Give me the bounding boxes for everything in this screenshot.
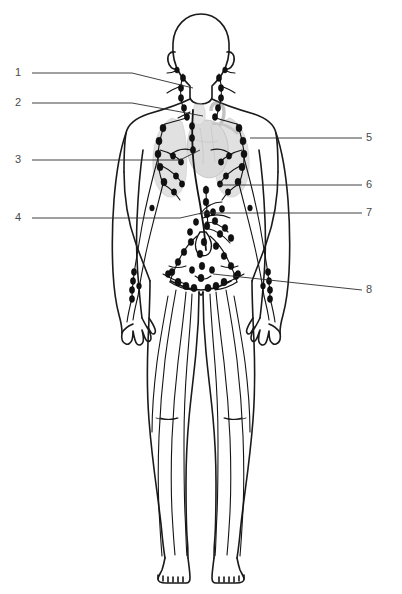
arm-left-inner: [137, 150, 143, 318]
lymph-node: [165, 271, 170, 278]
arm-right-inner: [259, 150, 265, 318]
lymph-node: [160, 124, 166, 132]
lymph-node: [218, 85, 223, 92]
lymph-node: [239, 163, 245, 171]
lymph-node: [178, 95, 183, 102]
lymph-node: [183, 282, 189, 290]
lymph-node: [188, 238, 194, 245]
lymph-node: [267, 287, 272, 294]
lymph-node: [267, 296, 272, 303]
lymph-node: [137, 283, 142, 289]
leg-left-inner: [186, 292, 199, 558]
lymph-node: [219, 206, 224, 213]
callout-number-8[interactable]: 8: [366, 284, 372, 295]
lymph-node: [157, 163, 163, 171]
lymph-node: [215, 105, 220, 112]
callout-number-2[interactable]: 2: [15, 97, 21, 108]
lymph-node: [161, 178, 167, 186]
organ-tint-group: [153, 103, 249, 197]
lymph-node: [179, 181, 184, 187]
thymus-tint: [193, 103, 206, 125]
lymph-node: [199, 262, 205, 270]
lymph-node: [181, 248, 187, 255]
lymph-node: [191, 284, 197, 292]
hand-right-thumb: [269, 324, 280, 333]
lymph-node: [170, 153, 175, 159]
lymph-node: [175, 258, 181, 265]
lymph-node: [189, 267, 194, 274]
lymph-node: [171, 189, 176, 195]
lymph-node: [212, 217, 218, 224]
leg-vessel-left-1: [158, 290, 176, 556]
leader-line-4: [32, 213, 202, 218]
lymph-node: [226, 153, 231, 159]
lymph-node: [241, 150, 247, 158]
callout-number-4[interactable]: 4: [15, 212, 21, 223]
lymph-node: [201, 238, 207, 246]
lymph-node: [131, 269, 136, 276]
lymph-node: [221, 278, 227, 286]
lymph-node: [203, 198, 209, 206]
leader-line-1: [32, 73, 193, 88]
hand-left-thumb: [122, 324, 133, 333]
lymph-node: [193, 219, 198, 226]
callout-number-6[interactable]: 6: [366, 179, 372, 190]
groin-line: [199, 292, 203, 295]
leg-right-inner: [203, 292, 216, 558]
lymph-node: [175, 278, 181, 286]
lymph-node: [189, 122, 194, 129]
lymph-node: [184, 114, 189, 121]
lymph-node: [203, 186, 209, 194]
obturator-left: [169, 266, 186, 268]
lymph-node: [218, 95, 223, 102]
lymph-node: [189, 134, 194, 141]
lymph-node: [223, 67, 228, 73]
lymph-node: [218, 159, 223, 165]
lymph-node: [173, 173, 178, 179]
lymph-node: [216, 75, 221, 82]
lymph-node: [129, 287, 134, 294]
callout-number-1[interactable]: 1: [15, 67, 21, 78]
lymph-node: [228, 234, 234, 241]
lymph-node: [150, 205, 155, 211]
lymph-node: [209, 267, 214, 274]
lymph-node: [187, 229, 192, 236]
lymph-node: [225, 189, 230, 195]
lymph-node: [217, 181, 222, 187]
lymph-node: [156, 137, 162, 145]
lymph-node: [180, 75, 185, 82]
toes-right: [219, 575, 244, 582]
lymph-node: [223, 173, 228, 179]
lymph-node: [213, 282, 219, 290]
lymph-node: [197, 250, 203, 258]
lymph-node: [212, 114, 217, 121]
lymph-node: [175, 67, 180, 73]
lymph-node: [155, 150, 161, 158]
leg-vessel-right-1: [226, 290, 244, 556]
callout-number-7[interactable]: 7: [366, 207, 372, 218]
lymph-node: [129, 296, 134, 303]
popliteal-left: [160, 418, 178, 420]
lymphatic-system-figure: 1 2 3 4 5 6 7 8: [0, 0, 402, 594]
callout-number-3[interactable]: 3: [15, 154, 21, 165]
lymph-node: [198, 274, 204, 282]
toes-left: [158, 575, 183, 582]
lymph-node: [248, 205, 253, 211]
lymph-node: [210, 209, 215, 216]
lymph-node: [217, 230, 223, 237]
lymph-node: [213, 242, 219, 249]
lymph-node: [205, 284, 211, 292]
lymph-node: [265, 269, 270, 276]
lymph-node: [204, 210, 210, 218]
lymph-node: [130, 278, 135, 285]
lymph-node: [221, 252, 227, 259]
lymph-node: [228, 262, 234, 269]
lymph-node: [236, 124, 242, 132]
lymph-node: [181, 105, 186, 112]
lymph-node: [266, 278, 271, 285]
arm-vessel-left-2: [138, 184, 163, 296]
callout-number-5[interactable]: 5: [366, 132, 372, 143]
body-outline-group: [112, 14, 289, 583]
popliteal-right: [224, 418, 242, 420]
lymph-node: [261, 283, 266, 289]
